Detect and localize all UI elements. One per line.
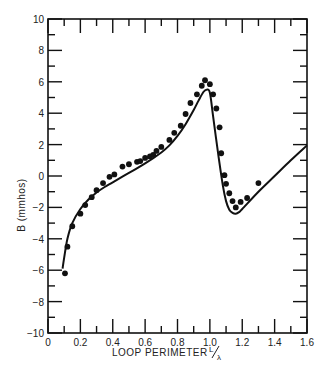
y-tick-label: −2 bbox=[33, 202, 45, 213]
x-tick-label: 1.6 bbox=[300, 337, 314, 348]
data-point bbox=[217, 124, 223, 130]
data-point bbox=[194, 91, 200, 97]
y-tick-label: 6 bbox=[38, 77, 44, 88]
data-point bbox=[137, 158, 143, 164]
data-point bbox=[126, 161, 132, 167]
y-tick-label: 8 bbox=[38, 45, 44, 56]
y-tick-label: 10 bbox=[33, 14, 45, 25]
y-tick-label: −10 bbox=[27, 328, 44, 339]
y-tick-label: −6 bbox=[33, 265, 45, 276]
measured-points bbox=[62, 77, 261, 276]
data-point bbox=[65, 244, 71, 250]
data-point bbox=[171, 130, 177, 136]
y-tick-label: 4 bbox=[38, 108, 44, 119]
data-point bbox=[111, 172, 117, 178]
data-point bbox=[256, 180, 262, 186]
x-tick-label: 1.2 bbox=[235, 337, 249, 348]
data-point bbox=[82, 202, 88, 208]
chart: 1086420−2−4−6−8−10 00.20.40.60.81.01.21.… bbox=[0, 0, 329, 371]
data-point bbox=[223, 181, 229, 187]
data-point bbox=[207, 81, 213, 87]
data-point bbox=[183, 111, 189, 117]
data-point bbox=[244, 195, 250, 201]
y-tick-label: −8 bbox=[33, 297, 45, 308]
y-tick-labels: 1086420−2−4−6−8−10 bbox=[27, 14, 44, 339]
x-axis-title-main: LOOP PERIMETER bbox=[112, 347, 208, 358]
data-point bbox=[77, 211, 83, 217]
data-point bbox=[210, 91, 216, 97]
data-point bbox=[222, 172, 228, 178]
data-point bbox=[233, 205, 239, 211]
x-tick-label: 0 bbox=[45, 337, 51, 348]
data-point bbox=[226, 190, 232, 196]
y-tick-label: 0 bbox=[38, 171, 44, 182]
data-point bbox=[62, 270, 68, 276]
y-axis-title: B (mmhos) bbox=[16, 178, 27, 231]
y-tick-label: −4 bbox=[33, 234, 45, 245]
axis-ticks bbox=[48, 19, 307, 333]
x-axis-title-frac-den: λ bbox=[217, 353, 222, 362]
data-point bbox=[94, 187, 100, 193]
data-point bbox=[100, 180, 106, 186]
data-point bbox=[69, 223, 75, 229]
data-point bbox=[178, 123, 184, 129]
data-point bbox=[89, 194, 95, 200]
data-point bbox=[167, 137, 173, 143]
data-point bbox=[154, 148, 160, 154]
data-point bbox=[230, 198, 236, 204]
data-point bbox=[238, 199, 244, 205]
data-point bbox=[158, 144, 164, 150]
plot-frame bbox=[48, 19, 307, 333]
data-point bbox=[218, 150, 224, 156]
data-point bbox=[188, 100, 194, 106]
data-point bbox=[120, 164, 126, 170]
y-tick-label: 2 bbox=[38, 140, 44, 151]
x-axis-title-frac-num: L bbox=[209, 345, 214, 354]
x-tick-label: 0.2 bbox=[73, 337, 87, 348]
x-axis-title: LOOP PERIMETER L λ bbox=[112, 345, 222, 362]
x-tick-label: 1.4 bbox=[268, 337, 282, 348]
data-point bbox=[213, 106, 219, 112]
data-point bbox=[202, 77, 208, 83]
data-point bbox=[199, 83, 205, 89]
